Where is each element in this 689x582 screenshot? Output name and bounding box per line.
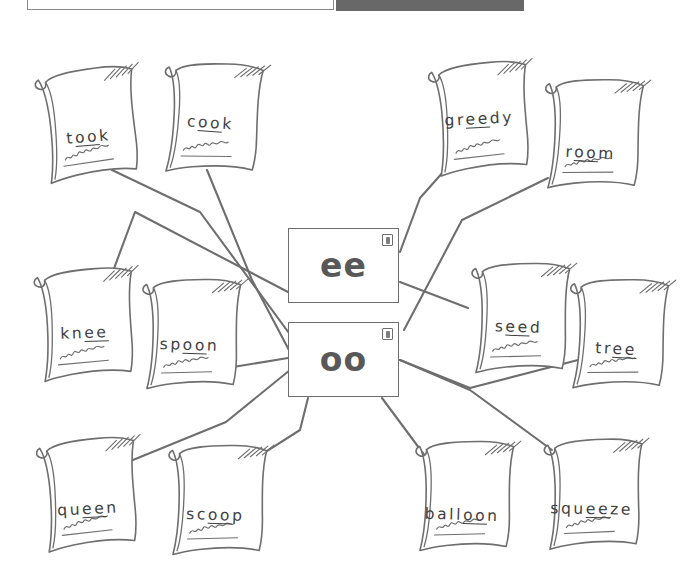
scroll-shape [532,427,652,554]
word-suffix: n [207,337,220,355]
scroll-shape [25,425,149,556]
word-card-greedy[interactable]: greedy [417,49,541,180]
word-vowel-digraph: oo [74,127,100,147]
scroll-shape [530,65,654,196]
word-suffix: k [222,115,235,134]
word-vowel-digraph: oo [197,113,222,133]
word-card-scoop[interactable]: scoop [155,432,277,561]
word-card-spoon[interactable]: spoon [129,266,251,395]
word-card-cook[interactable]: cook [148,48,274,181]
tool-chip[interactable] [336,0,524,11]
diagram-canvas[interactable]: ee oo tookcookgreedyroomkneespoonseedtre… [0,30,689,582]
word-prefix: qu [57,500,83,519]
scroll-shape [23,53,151,188]
word-vowel-digraph: ee [82,499,107,518]
word-vowel-digraph: ee [465,109,490,128]
word-prefix: tr [595,339,613,358]
word-vowel-digraph: ee [505,318,530,337]
word-prefix: sp [159,335,183,354]
word-card-squeeze[interactable]: squeeze [532,427,652,554]
concept-label-ee: ee [320,249,367,282]
concept-node-oo[interactable]: oo [288,322,399,397]
word-suffix: n [487,507,500,525]
word-suffix: dy [489,108,514,127]
scroll-shape [129,266,251,395]
word-prefix: gr [444,111,466,130]
word-card-took[interactable]: took [23,53,151,188]
word-suffix: d [529,318,542,336]
word-prefix: kn [60,324,85,343]
concept-node-ee[interactable]: ee [288,228,399,303]
word-card-knee[interactable]: knee [23,256,145,385]
scroll-shape [555,265,679,396]
word-vowel-digraph: ee [84,323,109,342]
word-vowel-digraph: oo [208,506,233,525]
word-suffix: m [598,144,617,163]
title-input[interactable] [27,0,334,10]
word-card-label-squeeze: squeeze [533,499,651,519]
speaker-icon[interactable] [382,234,393,246]
word-suffix: ze [610,500,633,518]
word-card-balloon[interactable]: balloon [402,428,524,557]
word-prefix: s [495,317,506,335]
word-vowel-digraph: oo [463,506,488,525]
concept-label-oo: oo [320,343,367,376]
word-vowel-digraph: oo [574,143,599,162]
word-card-queen[interactable]: queen [25,425,149,556]
word-suffix: k [98,126,111,145]
word-prefix: squ [550,499,586,518]
word-prefix: sc [186,505,208,524]
word-vowel-digraph: ee [612,340,637,359]
scroll-shape [23,256,145,385]
word-prefix: ball [424,505,463,524]
speaker-icon[interactable] [382,328,393,340]
word-vowel-digraph: oo [182,336,207,355]
scroll-shape [402,428,524,557]
top-bar [0,0,689,30]
word-vowel-digraph: ee [586,500,611,518]
scroll-shape [155,432,277,561]
edge-seed-to-ee[interactable] [400,282,468,308]
word-card-room[interactable]: room [530,65,654,196]
word-suffix: n [106,498,119,517]
word-card-tree[interactable]: tree [555,265,679,396]
word-suffix: p [232,507,245,525]
